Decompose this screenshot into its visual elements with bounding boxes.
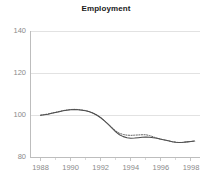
data-series (41, 109, 195, 142)
employment-chart: Employment 80100120140 19881990199219941… (0, 0, 212, 189)
gridlines (30, 31, 200, 115)
y-tick-label-80: 80 (4, 153, 26, 161)
axis-lines (30, 31, 200, 157)
series-line-solid (41, 110, 195, 143)
x-tick-label-1998: 1998 (176, 164, 206, 172)
series-line-dotted (41, 109, 195, 142)
x-tick-label-1994: 1994 (116, 164, 146, 172)
x-tick-label-1996: 1996 (146, 164, 176, 172)
x-tick-label-1990: 1990 (56, 164, 86, 172)
x-tick-label-1992: 1992 (86, 164, 116, 172)
y-tick-label-140: 140 (4, 27, 26, 35)
x-tick-label-1988: 1988 (26, 164, 56, 172)
y-tick-label-120: 120 (4, 69, 26, 77)
plot-area (0, 0, 212, 189)
y-tick-label-100: 100 (4, 111, 26, 119)
